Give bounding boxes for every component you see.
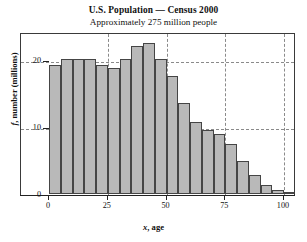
histogram-bar xyxy=(214,134,226,194)
histogram-bar xyxy=(49,65,61,194)
x-tick-label: 75 xyxy=(211,201,237,210)
histogram-bar xyxy=(167,76,179,194)
y-tick-label: 20 xyxy=(22,56,41,65)
x-tick-mark xyxy=(224,196,225,200)
plot-inner xyxy=(21,34,294,195)
x-axis-line xyxy=(20,195,295,196)
chart-title-block: U.S. Population — Census 2000 Approximat… xyxy=(0,4,307,28)
histogram-bar xyxy=(143,43,155,194)
histogram-bar xyxy=(190,122,202,194)
chart-subtitle: Approximately 275 million people xyxy=(0,16,307,28)
x-tick-label: 100 xyxy=(270,201,296,210)
histogram-bar xyxy=(155,59,167,194)
y-axis-label-rest: , number (millions) xyxy=(9,52,19,122)
y-axis-label: f, number (millions) xyxy=(9,29,19,149)
histogram-bars xyxy=(21,34,294,195)
histogram-bar xyxy=(120,59,132,194)
x-tick-mark xyxy=(283,196,284,200)
histogram-bar xyxy=(84,59,96,194)
x-tick-mark xyxy=(107,196,108,200)
histogram-bar xyxy=(261,185,273,194)
x-axis-label: x, age xyxy=(0,222,307,232)
chart-figure: U.S. Population — Census 2000 Approximat… xyxy=(0,0,307,242)
plot-area xyxy=(20,33,295,196)
x-axis-label-rest: , age xyxy=(147,222,164,232)
histogram-bar xyxy=(284,192,294,194)
histogram-bar xyxy=(96,65,108,194)
histogram-bar xyxy=(237,161,249,195)
y-axis-label-var: f xyxy=(9,123,19,126)
histogram-bar xyxy=(272,190,284,194)
x-tick-label: 50 xyxy=(153,201,179,210)
histogram-bar xyxy=(249,175,261,194)
histogram-bar xyxy=(108,68,120,194)
histogram-bar xyxy=(178,103,190,194)
x-tick-mark xyxy=(48,196,49,200)
y-tick-label: 0 xyxy=(22,190,41,199)
y-tick-label: 10 xyxy=(22,123,41,132)
page-title: U.S. Population — Census 2000 xyxy=(0,4,307,16)
histogram-bar xyxy=(202,130,214,194)
y-tick-mark xyxy=(43,61,49,62)
x-tick-label: 25 xyxy=(94,201,120,210)
histogram-bar xyxy=(225,144,237,194)
x-tick-label: 0 xyxy=(35,201,61,210)
y-tick-mark xyxy=(43,128,49,129)
histogram-bar xyxy=(61,59,73,194)
y-tick-mark xyxy=(43,195,49,196)
histogram-bar xyxy=(131,46,143,194)
histogram-bar xyxy=(73,59,85,194)
x-tick-mark xyxy=(166,196,167,200)
